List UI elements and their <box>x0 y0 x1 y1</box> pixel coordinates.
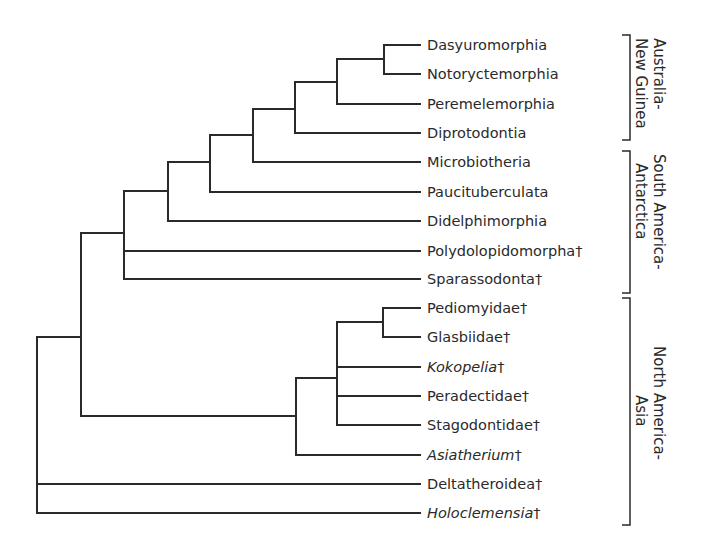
leaf-polydolopidomorpha: Polydolopidomorpha† <box>427 242 582 260</box>
taxon-name: Didelphimorphia <box>427 213 547 229</box>
extinct-dagger: † <box>503 329 510 345</box>
taxon-name: Asiatherium <box>427 447 515 463</box>
leaf-microbiotheria: Microbiotheria <box>427 153 531 171</box>
taxon-name: Notoryctemorphia <box>427 66 559 82</box>
extinct-dagger: † <box>575 243 582 259</box>
leaf-didelphimorphia: Didelphimorphia <box>427 212 547 230</box>
leaf-pediomyidae: Pediomyidae† <box>427 299 527 317</box>
taxon-name: Glasbiidae <box>427 329 503 345</box>
leaf-peremelemorphia: Peremelemorphia <box>427 95 555 113</box>
taxon-name: Holoclemensia <box>427 505 533 521</box>
extinct-dagger: † <box>535 476 542 492</box>
region-south-america-antarctica-line2: Antarctica <box>632 163 649 239</box>
leaf-kokopelia: Kokopelia† <box>427 358 504 376</box>
region-australia-new-guinea-line1: Australia- <box>650 38 667 110</box>
taxon-name: Paucituberculata <box>427 184 548 200</box>
leaf-holoclemensia: Holoclemensia† <box>427 504 541 522</box>
extinct-dagger: † <box>520 300 527 316</box>
extinct-dagger: † <box>533 417 540 433</box>
taxon-name: Stagodontidae <box>427 417 533 433</box>
leaf-glasbiidae: Glasbiidae† <box>427 328 510 346</box>
taxon-name: Kokopelia <box>427 359 497 375</box>
leaf-notoryctemorphia: Notoryctemorphia <box>427 65 559 83</box>
region-north-america-asia-line1: North America- <box>650 346 667 460</box>
leaf-dasyuromorphia: Dasyuromorphia <box>427 36 547 54</box>
region-south-america-antarctica-line1: South America- <box>650 154 667 270</box>
extinct-dagger: † <box>515 447 522 463</box>
taxon-name: Dasyuromorphia <box>427 37 547 53</box>
leaf-sparassodonta: Sparassodonta† <box>427 270 542 288</box>
leaf-asiatherium: Asiatherium† <box>427 446 522 464</box>
leaf-deltatheroidea: Deltatheroidea† <box>427 475 542 493</box>
extinct-dagger: † <box>533 505 540 521</box>
cladogram-tree <box>0 0 711 545</box>
taxon-name: Diprotodontia <box>427 125 526 141</box>
region-north-america-asia-line2: Asia <box>632 395 649 426</box>
region-australia-new-guinea-line2: New Guinea <box>632 38 649 129</box>
taxon-name: Peradectidae <box>427 388 522 404</box>
leaf-stagodontidae: Stagodontidae† <box>427 416 540 434</box>
leaf-peradectidae: Peradectidae† <box>427 387 529 405</box>
leaf-paucituberculata: Paucituberculata <box>427 183 548 201</box>
taxon-name: Pediomyidae <box>427 300 520 316</box>
taxon-name: Microbiotheria <box>427 154 531 170</box>
taxon-name: Peremelemorphia <box>427 96 555 112</box>
extinct-dagger: † <box>535 271 542 287</box>
taxon-name: Polydolopidomorpha <box>427 243 575 259</box>
extinct-dagger: † <box>522 388 529 404</box>
extinct-dagger: † <box>497 359 504 375</box>
taxon-name: Deltatheroidea <box>427 476 535 492</box>
taxon-name: Sparassodonta <box>427 271 535 287</box>
leaf-diprotodontia: Diprotodontia <box>427 124 526 142</box>
